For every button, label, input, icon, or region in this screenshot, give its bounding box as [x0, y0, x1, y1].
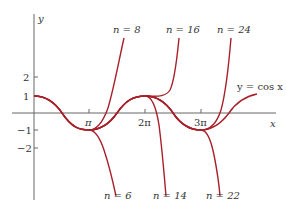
curve-n14	[89, 96, 166, 196]
y-tick-label-2: 2	[23, 72, 29, 83]
label-n14: n = 14	[153, 190, 187, 201]
curve-n16	[89, 38, 179, 130]
y-tick-label-1: 1	[23, 91, 29, 102]
x-tick-label-pi: π	[84, 117, 92, 128]
x-tick-label-2pi: 2π	[138, 117, 151, 128]
y-axis-label: y	[37, 13, 44, 24]
y-tick-label-m1: −1	[17, 125, 32, 136]
curve-n6	[34, 96, 116, 196]
label-n24: n = 24	[217, 24, 251, 35]
label-n8: n = 8	[113, 24, 141, 35]
label-n6: n = 6	[104, 190, 132, 201]
y-tick-label-m2: −2	[17, 143, 32, 154]
taylor-cos-chart: y x 2 1 −1 −2 π 2π 3π n = 8 n = 16 n = 2…	[0, 0, 286, 211]
label-cos: y = cos x	[236, 81, 283, 92]
x-tick-label-3pi: 3π	[194, 117, 207, 128]
label-n22: n = 22	[206, 190, 240, 201]
label-n16: n = 16	[166, 24, 201, 35]
curve-n8	[34, 38, 124, 130]
x-axis-label: x	[270, 118, 276, 129]
